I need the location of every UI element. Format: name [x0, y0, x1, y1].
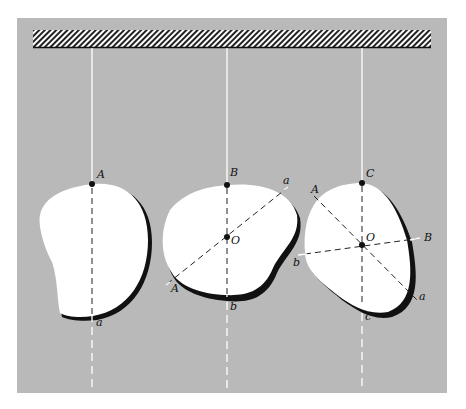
label-B: B	[423, 231, 432, 244]
body-3: C A O B b a c	[293, 167, 432, 390]
label-a: a	[283, 174, 290, 187]
body-2: B a O A b	[163, 166, 301, 390]
label-A: A	[96, 168, 105, 181]
label-A: A	[170, 282, 179, 295]
label-C: C	[366, 167, 375, 180]
body-1: A a	[40, 168, 152, 390]
label-b: b	[293, 256, 300, 269]
label-A: A	[310, 183, 319, 196]
label-O: O	[366, 231, 375, 244]
label-a: a	[419, 290, 426, 303]
label-c: c	[365, 310, 371, 323]
ceiling-support	[33, 30, 431, 48]
strings	[92, 48, 362, 185]
label-B: B	[229, 166, 238, 179]
label-a: a	[96, 316, 103, 329]
center-of-gravity-diagram: A a B a O A b C A O B b a c	[0, 0, 466, 409]
label-b: b	[230, 300, 237, 313]
label-O: O	[231, 234, 240, 247]
